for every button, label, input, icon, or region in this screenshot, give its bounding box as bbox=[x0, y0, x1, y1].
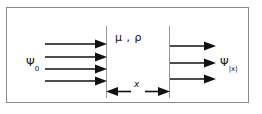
incident-flux-subscript: 0 bbox=[35, 65, 39, 73]
incident-arrow-3 bbox=[45, 64, 107, 74]
incident-arrow-1 bbox=[45, 39, 107, 49]
attenuation-figure: μ , ρ Ψ0 Ψ|x| x bbox=[0, 0, 262, 114]
transmitted-arrow-3 bbox=[170, 74, 216, 84]
transmitted-flux-subscript: |x| bbox=[229, 65, 238, 73]
transmitted-arrow-2 bbox=[170, 58, 216, 68]
incident-arrow-2 bbox=[45, 52, 107, 62]
incident-flux-label: Ψ0 bbox=[26, 57, 39, 71]
material-properties-label: μ , ρ bbox=[115, 32, 142, 43]
incident-arrow-4 bbox=[45, 76, 107, 86]
transmitted-flux-label: Ψ|x| bbox=[220, 57, 238, 71]
transmitted-arrow-1 bbox=[170, 41, 216, 51]
thickness-dimension-line bbox=[106, 82, 170, 93]
incident-flux-symbol: Ψ bbox=[26, 56, 35, 69]
transmitted-flux-symbol: Ψ bbox=[220, 56, 229, 69]
figure-frame: μ , ρ Ψ0 Ψ|x| x bbox=[6, 7, 249, 103]
